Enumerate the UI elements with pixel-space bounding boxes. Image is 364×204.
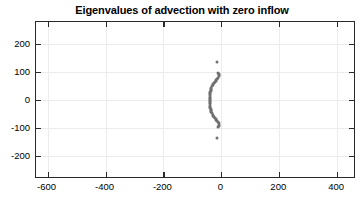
x-tick-label: -600 xyxy=(37,181,56,192)
x-tick-label: -200 xyxy=(153,181,172,192)
data-point xyxy=(216,125,219,128)
y-tick-label: 200 xyxy=(14,37,30,48)
scatter-series-eigenvalues xyxy=(36,22,354,177)
y-axis-tick-labels: 2001000-100-200 xyxy=(0,21,30,178)
x-axis-tick-labels: -600-400-2000200400 xyxy=(35,181,355,195)
x-tick-label: -400 xyxy=(95,181,114,192)
x-tick-label: 400 xyxy=(328,181,344,192)
x-tick-label: 200 xyxy=(270,181,286,192)
y-tick-label: 100 xyxy=(14,65,30,76)
figure-canvas: Eigenvalues of advection with zero inflo… xyxy=(0,0,364,204)
y-tick-label: -100 xyxy=(11,122,30,133)
x-tick-label: 0 xyxy=(218,181,223,192)
data-point xyxy=(216,60,219,63)
plot-area xyxy=(35,21,355,178)
data-point xyxy=(216,137,219,140)
y-tick-label: -200 xyxy=(11,150,30,161)
page-title: Eigenvalues of advection with zero inflo… xyxy=(0,3,364,17)
y-tick-label: 0 xyxy=(25,93,30,104)
